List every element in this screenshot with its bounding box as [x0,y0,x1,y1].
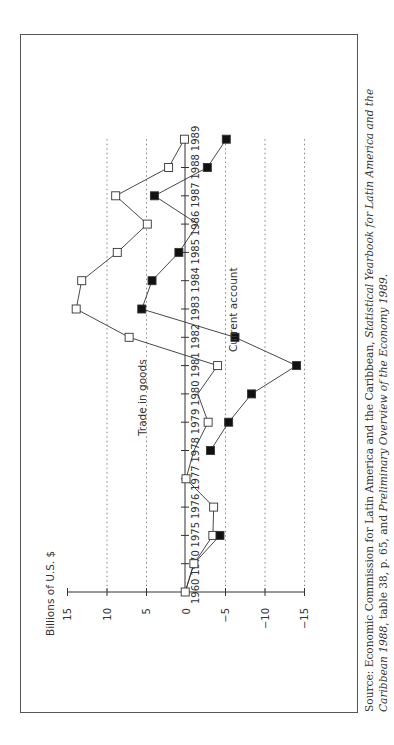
trade-marker [72,305,80,313]
source-middle: , table 38, p. 65, and [377,511,389,625]
trade-marker [182,475,190,483]
trade-marker [204,418,212,426]
value-tick-label: −10 [260,608,271,629]
year-label: 1985 [190,239,201,264]
current-account-marker [222,135,230,143]
current-account-marker [203,164,211,172]
year-label: 1980 [190,380,201,405]
trade-marker [165,164,173,172]
axes: 151050−5−10−1519601970197519761977197819… [62,126,310,629]
year-label: 1987 [190,182,201,207]
current-account-marker [150,192,158,200]
trade-marker [190,560,198,568]
line-chart: 151050−5−10−1519601970197519761977197819… [0,0,394,745]
value-tick-label: −5 [220,608,231,623]
year-label: 1989 [190,126,201,151]
current-account-marker [225,418,233,426]
value-tick-label: 15 [62,608,73,621]
source-prefix: Source: Economic Commission for Latin Am… [363,338,375,712]
current-account-marker [148,277,156,285]
year-label: 1982 [190,324,201,349]
year-label: 1984 [190,267,201,292]
current-account-marker [206,447,214,455]
current-account-label: Current account [227,267,239,352]
year-label: 1986 [190,211,201,236]
trade-marker [214,362,222,370]
trade-marker [210,503,218,511]
trade-marker [181,588,189,596]
trade-marker [143,220,151,228]
source-suffix: . [377,274,389,277]
current-account-marker [248,390,256,398]
trade-marker [112,192,120,200]
year-label: 1975 [190,522,201,547]
trade-marker [125,333,133,341]
year-label: 1983 [190,296,201,321]
year-label: 1981 [190,352,201,377]
trade-marker [113,248,121,256]
trade-marker [78,277,86,285]
source-title-2: Preliminary Overview of the Economy 1989 [377,277,389,511]
value-axis-label: Billions of U.S. $ [44,551,56,636]
value-tick-label: 10 [102,608,113,621]
trade-marker [180,135,188,143]
source-note: Source: Economic Commission for Latin Am… [362,32,390,712]
value-tick-label: 0 [181,608,192,614]
year-label: 1979 [190,409,201,434]
value-tick-label: 5 [141,608,152,614]
year-label: 1960 [190,579,201,604]
current-account-marker [138,305,146,313]
year-label: 1977 [190,465,201,490]
current-account-marker [175,248,183,256]
current-account-marker [293,362,301,370]
value-tick-label: −15 [299,608,310,629]
trade-in-goods-label: Trade in goods [136,359,148,437]
year-label: 1976 [190,494,201,519]
current-account-marker [216,531,224,539]
